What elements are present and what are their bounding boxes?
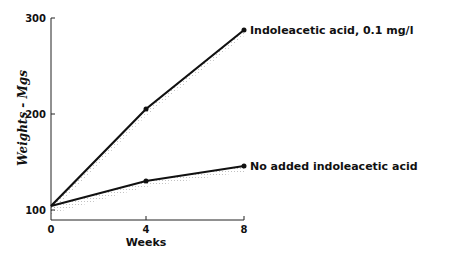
x-tick-4: 4 [143, 224, 150, 235]
series2-label: No added indoleacetic acid [250, 160, 418, 173]
series1-point-4 [144, 107, 149, 112]
series2-shade [51, 166, 244, 214]
y-tick-100: 100 [25, 205, 46, 216]
series2-point-4 [144, 179, 149, 184]
x-tick-8: 8 [241, 224, 248, 235]
series1-label: Indoleacetic acid, 0.1 mg/l [250, 24, 413, 37]
x-tick-0: 0 [48, 224, 55, 235]
x-axis-label: Weeks [126, 236, 167, 249]
y-axis-label: Weights - Mgs [16, 70, 30, 166]
series1-point-8 [242, 28, 247, 33]
y-tick-300: 300 [25, 13, 46, 24]
line-chart: 300 200 100 0 4 8 Weeks Weights - Mgs In… [0, 0, 450, 255]
series2-point-8 [242, 164, 247, 169]
